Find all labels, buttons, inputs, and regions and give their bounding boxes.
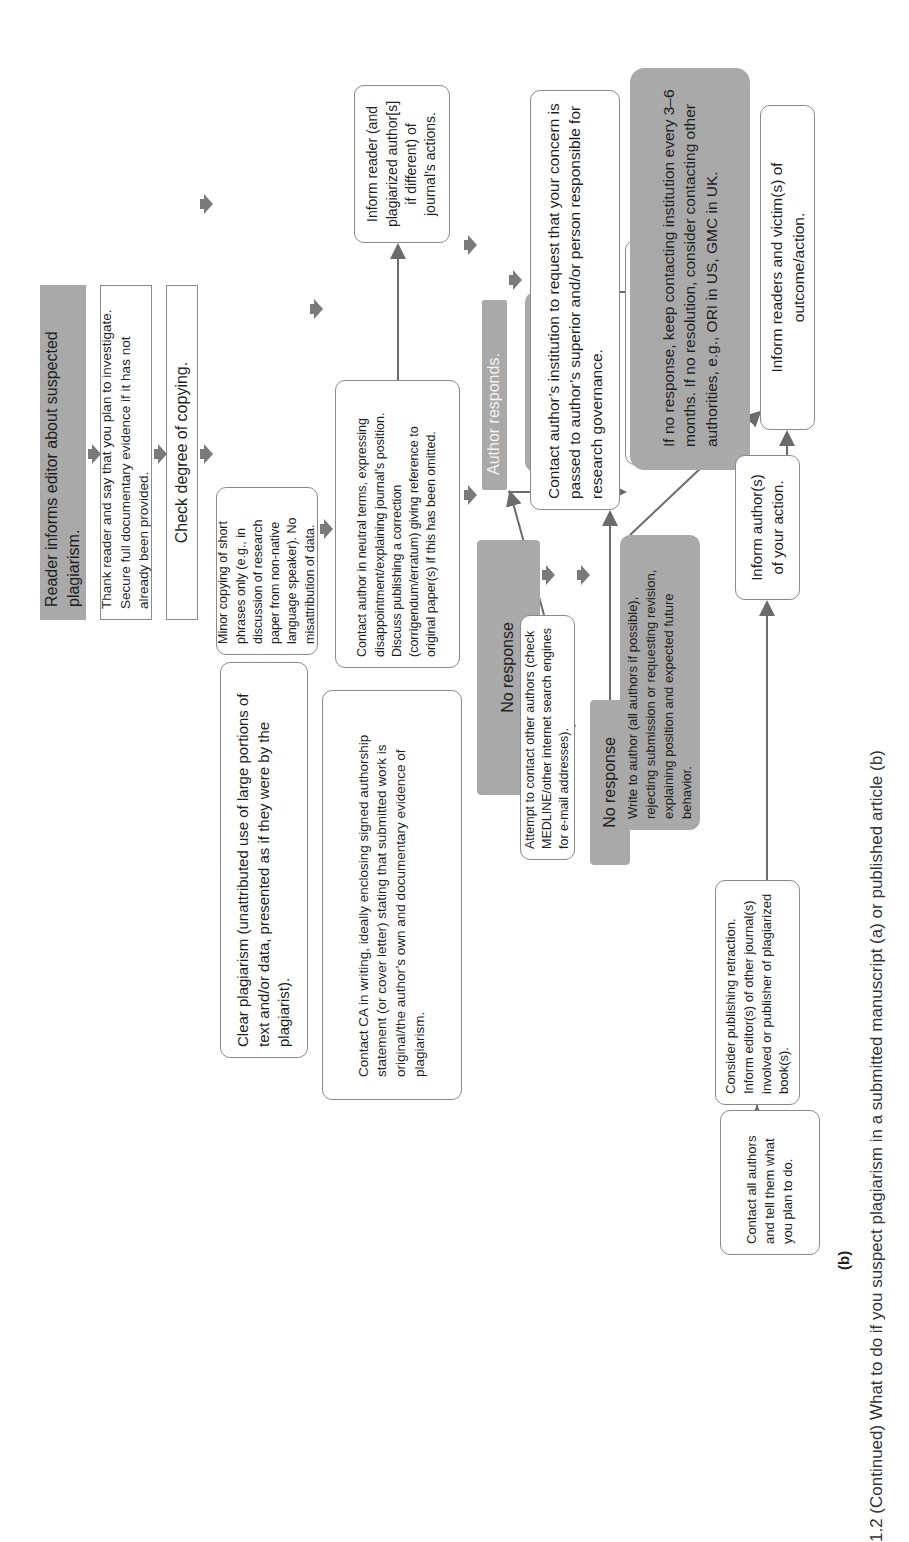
node-contact-ca-text: Contact CA in writing, ideally enclosing… (355, 701, 430, 1077)
node-contact-all-authors-text: Contact all authors and tell them what y… (743, 1121, 797, 1244)
node-contact-author-neutral-text: Contact author in neutral terms, express… (354, 391, 440, 657)
node-no-response-2-text: No response (599, 737, 621, 828)
node-contact-institution-text: Contact author’s institution to request … (543, 101, 607, 499)
node-contact-institution: Contact author’s institution to request … (530, 90, 620, 510)
node-check-degree-text: Check degree of copying. (171, 362, 193, 543)
node-clear-plagiarism-text: Clear plagiarism (unattributed use of la… (233, 673, 295, 1047)
node-if-no-response-text: If no response, keep contacting institut… (658, 79, 722, 447)
node-inform-readers-victims: Inform readers and victim(s) of outcome/… (760, 105, 815, 430)
node-no-response-1-text: No response (497, 622, 519, 713)
node-write-to-author: Write to author (all authors if possible… (620, 535, 700, 830)
node-author-responds: Author responds. (482, 300, 507, 490)
node-if-no-response: If no response, keep contacting institut… (630, 68, 750, 470)
node-write-to-author-text: Write to author (all authors if possible… (624, 546, 696, 819)
node-minor-copying: Minor copying of short phrases only (e.g… (216, 487, 318, 655)
caption-text: 1.2 (Continued) What to do if you suspec… (867, 750, 887, 1542)
node-thank-reader: Thank reader and say that you plan to in… (100, 285, 152, 620)
node-inform-readers-victims-text: Inform readers and victim(s) of outcome/… (766, 116, 809, 419)
node-contact-all-authors: Contact all authors and tell them what y… (720, 1110, 820, 1255)
panel-label: (b) (835, 1251, 852, 1270)
node-reader-informs-text: Reader informs editor about suspected pl… (41, 296, 85, 607)
node-contact-author-neutral: Contact author in neutral terms, express… (335, 380, 460, 668)
node-thank-reader-text: Thank reader and say that you plan to in… (98, 296, 154, 609)
flowchart-canvas: Reader informs editor about suspected pl… (0, 0, 909, 1542)
node-attempt-contact: Attempt to contact other authors (check … (520, 615, 575, 860)
node-inform-authors-action-text: Inform author(s) of your action. (747, 466, 788, 589)
node-inform-reader-text: Inform reader (and plagiarized author[s]… (363, 96, 440, 232)
node-clear-plagiarism: Clear plagiarism (unattributed use of la… (220, 662, 308, 1058)
node-attempt-contact-text: Attempt to contact other authors (check … (522, 626, 574, 849)
node-author-responds-text: Author responds. (483, 353, 505, 475)
node-consider-retraction: Consider publishing retraction. Inform e… (715, 880, 800, 1105)
node-consider-retraction-text: Consider publishing retraction. Inform e… (722, 891, 794, 1094)
node-minor-copying-text: Minor copying of short phrases only (e.g… (215, 498, 319, 644)
node-inform-authors-action: Inform author(s) of your action. (735, 455, 800, 600)
node-inform-reader: Inform reader (and plagiarized author[s]… (354, 85, 450, 243)
node-reader-informs: Reader informs editor about suspected pl… (40, 285, 86, 620)
node-check-degree: Check degree of copying. (166, 285, 198, 620)
node-contact-ca: Contact CA in writing, ideally enclosing… (322, 690, 462, 1100)
